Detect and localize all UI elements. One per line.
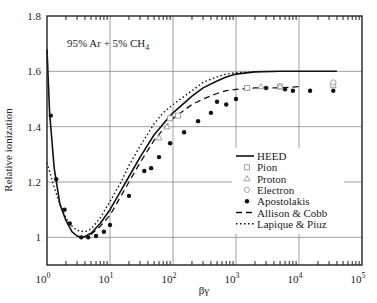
legend-label: Proton (257, 173, 287, 185)
x-tick-label: 105 (351, 271, 366, 285)
legend-label: HEED (257, 150, 286, 162)
apostolakis-point (196, 119, 200, 123)
legend-label: Electron (257, 184, 295, 196)
apostolakis-point (79, 235, 83, 239)
y-axis-tick-labels: 11.21.41.61.8 (27, 10, 41, 243)
pion-point (245, 85, 250, 90)
apostolakis-point (86, 235, 90, 239)
annotation-subscript: 4 (145, 43, 149, 52)
x-tick-label: 104 (288, 271, 303, 285)
x-tick-label: 100 (36, 271, 51, 285)
apostolakis-point (308, 89, 312, 93)
apostolakis-point (102, 230, 106, 234)
legend-swatch (245, 165, 250, 170)
x-axis-label: βγ (199, 284, 210, 296)
legend-label: Pion (257, 161, 278, 173)
apostolakis-point (209, 111, 213, 115)
apostolakis-point (127, 194, 131, 198)
y-tick-label: 1.2 (27, 176, 41, 188)
x-tick-label: 101 (99, 271, 114, 285)
lapique-piuz-curve (47, 72, 255, 232)
apostolakis-point (68, 221, 72, 225)
pion-point (175, 113, 180, 118)
apostolakis-point (49, 113, 53, 117)
legend-label: Allison & Cobb (257, 207, 328, 219)
y-tick-label: 1.4 (27, 121, 41, 133)
x-tick-label: 102 (162, 271, 177, 285)
y-tick-label: 1.6 (27, 65, 41, 77)
apostolakis-point (62, 207, 66, 211)
apostolakis-point (168, 141, 172, 145)
y-axis-label: Relative ionization (2, 108, 14, 192)
gas-mixture-annotation: 95% Ar + 5% CH4 (67, 37, 149, 52)
apostolakis-point (149, 166, 153, 170)
annotation-main: 95% Ar + 5% CH (67, 37, 145, 49)
y-tick-label: 1.8 (27, 10, 41, 22)
apostolakis-point (234, 97, 238, 101)
apostolakis-point (142, 169, 146, 173)
apostolakis-point (94, 234, 98, 238)
legend-label: Lapique & Piuz (257, 218, 327, 230)
chart: 11.21.41.61.8 100101102103104105 Relativ… (0, 0, 377, 303)
apostolakis-point (215, 100, 219, 104)
x-tick-label: 103 (225, 271, 240, 285)
proton-point (156, 135, 162, 140)
x-axis-tick-labels: 100101102103104105 (36, 271, 366, 285)
apostolakis-point (157, 155, 161, 159)
apostolakis-point (108, 223, 112, 227)
y-tick-label: 1 (36, 231, 42, 243)
legend-swatch (245, 199, 249, 203)
electron-point (331, 80, 336, 85)
legend-label: Apostolakis (257, 195, 310, 207)
proton-point (258, 84, 264, 89)
apostolakis-point (331, 89, 335, 93)
legend-swatch (244, 187, 249, 192)
legend: HEEDPionProtonElectronApostolakisAllison… (232, 148, 344, 234)
apostolakis-point (264, 86, 268, 90)
pion-point (168, 116, 173, 121)
apostolakis-point (182, 130, 186, 134)
apostolakis-point (224, 102, 228, 106)
apostolakis-point (54, 177, 58, 181)
apostolakis-point (291, 89, 295, 93)
apostolakis-point (283, 87, 287, 91)
